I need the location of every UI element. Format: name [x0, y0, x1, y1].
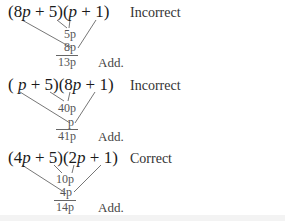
verdict-label: Incorrect — [130, 5, 181, 21]
trial-expression: ( p + 5)(8p + 1) — [8, 75, 114, 95]
sum-result: 41p — [58, 129, 76, 144]
trial-block-3: (4p + 5)(2p + 1) Correct 10p 4p 14p Add. — [0, 148, 285, 220]
trial-expression: (4p + 5)(2p + 1) — [8, 148, 118, 168]
add-label: Add. — [98, 129, 124, 145]
outer-product: p — [68, 115, 74, 130]
inner-product: 40p — [58, 101, 76, 116]
verdict-label: Incorrect — [130, 78, 181, 94]
add-label: Add. — [98, 55, 124, 71]
sum-result: 13p — [58, 55, 76, 70]
sum-result: 14p — [56, 200, 74, 215]
outer-product: 4p — [60, 185, 72, 200]
trial-expression: (8p + 5)(p + 1) — [8, 2, 109, 22]
bottom-edge — [0, 215, 285, 221]
outer-product: 8p — [64, 40, 76, 55]
verdict-label: Correct — [130, 151, 172, 167]
add-label: Add. — [98, 200, 124, 216]
trial-block-2: ( p + 5)(8p + 1) Incorrect 40p p 41p Add… — [0, 75, 285, 147]
trial-block-1: (8p + 5)(p + 1) Incorrect 5p 8p 13p Add. — [0, 2, 285, 74]
